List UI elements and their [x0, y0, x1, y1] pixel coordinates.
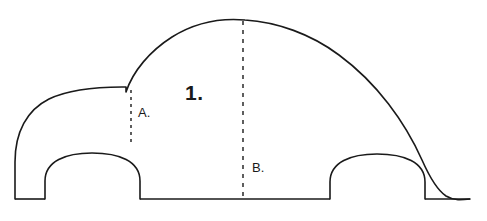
callout-label-a: A. [138, 106, 150, 119]
front-wheel-arch [45, 153, 140, 199]
diagram-canvas: 1. A. B. [0, 0, 487, 221]
car-profile-diagram [0, 0, 487, 221]
car-body-outline [15, 20, 470, 200]
callout-label-1: 1. [185, 82, 204, 103]
callout-label-b: B. [252, 161, 264, 174]
rear-wheel-arch [330, 154, 425, 199]
